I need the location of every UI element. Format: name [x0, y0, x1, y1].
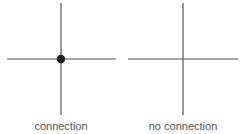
connection-cross [7, 3, 116, 115]
no-connection-label: no connection [133, 120, 233, 132]
no-connection-cross [128, 3, 238, 115]
junction-dot [57, 55, 65, 63]
junction-diagram [0, 0, 249, 134]
connection-label: connection [11, 120, 111, 132]
